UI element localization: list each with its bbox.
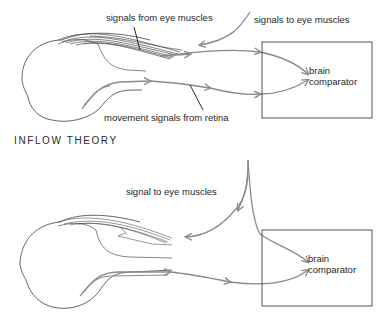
label-signal-to-eye-muscles: signal to eye muscles xyxy=(126,186,217,197)
eye-muscle-fibers-2 xyxy=(58,218,172,245)
efferent-signal-path-2 xyxy=(186,160,248,237)
label-comparator-2: comparator xyxy=(308,264,356,275)
label-brain-2: brain xyxy=(308,253,329,264)
label-movement-signals-retina: movement signals from retina xyxy=(104,112,229,123)
panel-title-inflow-theory: INFLOW THEORY xyxy=(14,135,118,146)
label-brain: brain xyxy=(309,65,330,76)
label-signals-from-eye-muscles: signals from eye muscles xyxy=(106,12,213,23)
label-comparator: comparator xyxy=(309,76,357,87)
bottom-panel xyxy=(20,160,372,308)
efference-copy-path xyxy=(248,160,308,262)
leader-line-muscles xyxy=(134,27,140,50)
label-signals-to-eye-muscles: signals to eye muscles xyxy=(254,14,350,25)
eyeball-outline xyxy=(22,40,142,121)
leader-line-retina xyxy=(190,85,203,110)
eyeball-outline-2 xyxy=(20,222,172,308)
